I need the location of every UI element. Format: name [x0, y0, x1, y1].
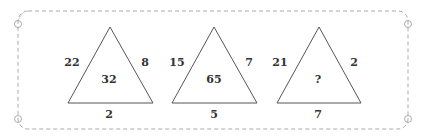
triangle-1-bottom-value: 2 [105, 108, 113, 121]
triangle-1-right-value: 8 [141, 56, 149, 69]
triangle-2-bottom-value: 5 [210, 108, 218, 121]
triangle-3-center-value: ? [315, 73, 321, 86]
triangle-2-right-value: 7 [245, 56, 253, 69]
triangle-2-left-value: 15 [169, 56, 184, 69]
triangle-1-center-value: 32 [101, 73, 116, 86]
triangle-1-left-value: 22 [64, 56, 79, 69]
triangle-3-bottom-value: 7 [314, 108, 322, 121]
triangle-3-left-value: 21 [272, 56, 287, 69]
corner-ring-icon [15, 12, 25, 28]
triangle-3: 21 2 ? 7 [272, 27, 361, 121]
triangle-2: 15 7 65 5 [169, 27, 257, 121]
triangle-1: 22 8 32 2 [64, 27, 153, 121]
triangle-2-center-value: 65 [206, 73, 221, 86]
triangle-3-right-value: 2 [350, 56, 358, 69]
triangle-puzzle-diagram: 22 8 32 2 15 7 65 5 21 2 ? 7 [0, 0, 424, 136]
